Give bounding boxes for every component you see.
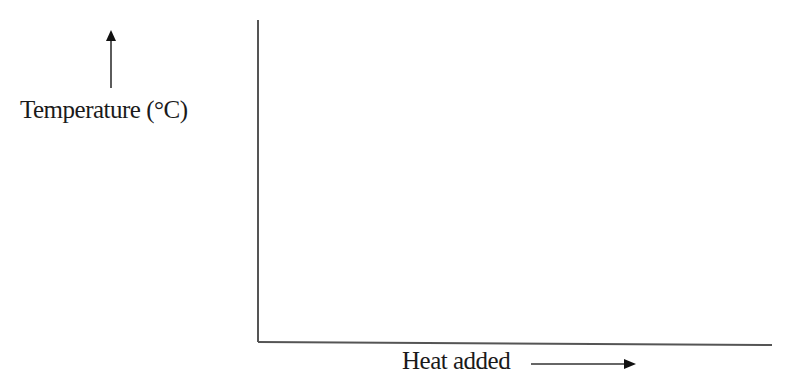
x-axis-label: Heat added bbox=[402, 347, 510, 375]
axes-diagram bbox=[0, 0, 787, 382]
y-axis-label: Temperature (°C) bbox=[20, 96, 188, 124]
up-arrow-icon bbox=[106, 30, 116, 88]
x-axis-line bbox=[258, 342, 772, 345]
right-arrow-icon bbox=[531, 359, 636, 369]
